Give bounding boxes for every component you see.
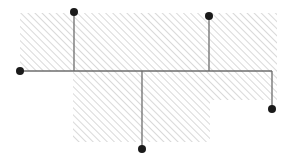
hatched-region: [20, 13, 277, 142]
node-top-right-dot-icon: [205, 12, 213, 20]
node-bottom-dot-icon: [138, 145, 146, 153]
hatched-area: [20, 13, 277, 142]
node-right-dot-icon: [268, 105, 276, 113]
network-diagram: [0, 0, 287, 159]
node-top-left-dot-icon: [70, 8, 78, 16]
node-left-dot-icon: [16, 67, 24, 75]
